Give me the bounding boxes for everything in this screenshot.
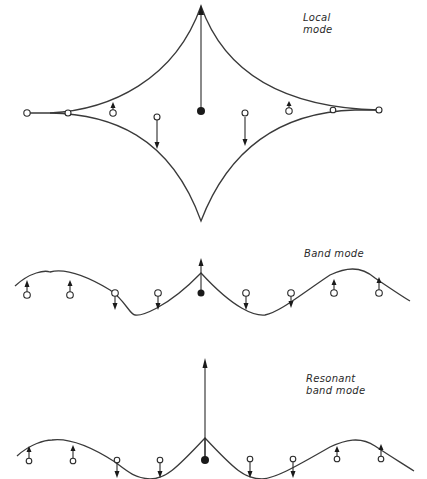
atom <box>288 290 295 297</box>
atom <box>67 292 74 299</box>
atom <box>290 456 296 462</box>
atom <box>157 457 163 463</box>
atom <box>378 456 384 462</box>
resonant-band-mode-panel <box>17 358 414 479</box>
atom <box>242 110 248 116</box>
atom <box>376 290 383 297</box>
atom <box>154 114 160 120</box>
arrow-head-icon <box>199 258 204 266</box>
atom <box>70 458 76 464</box>
atom <box>331 290 338 297</box>
local-mode-panel <box>24 5 382 221</box>
band-mode-panel <box>15 258 410 315</box>
atom <box>110 110 116 116</box>
atom <box>286 108 292 114</box>
atom <box>26 458 32 464</box>
atom <box>247 456 253 462</box>
phonon-mode-diagram <box>0 0 427 479</box>
atom <box>330 107 336 113</box>
atom <box>114 457 120 463</box>
central-atom <box>198 290 205 297</box>
atom <box>243 290 250 297</box>
atom <box>65 110 71 116</box>
local-envelope-upper <box>27 6 379 113</box>
atom <box>334 456 340 462</box>
atom <box>376 107 382 113</box>
central-atom <box>201 456 209 464</box>
local-envelope-lower <box>50 110 379 221</box>
atom <box>155 290 162 297</box>
resonant-wave <box>17 438 414 479</box>
arrow-head-icon <box>203 358 208 368</box>
central-atom <box>197 107 205 115</box>
atom <box>24 292 31 299</box>
atom <box>24 110 30 116</box>
atom <box>112 290 119 297</box>
band-wave <box>15 269 410 315</box>
